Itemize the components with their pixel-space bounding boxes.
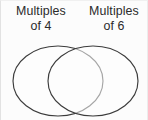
venn-circles-svg	[1, 1, 148, 120]
venn-circle-right	[48, 46, 138, 116]
venn-diagram-figure: Multiples of 4 Multiples of 6	[0, 0, 148, 120]
